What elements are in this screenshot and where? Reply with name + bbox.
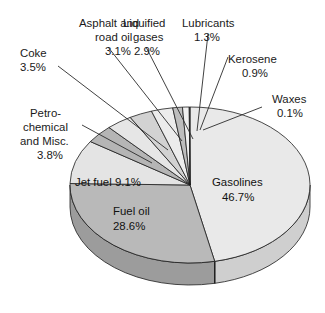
label-kerosene-pct: 0.9%	[242, 67, 268, 79]
label-waxes: Waxes 0.1%	[272, 93, 307, 119]
label-liquified-line2: gases	[133, 31, 164, 43]
label-gasolines-line1: Gasolines	[212, 176, 263, 188]
label-liquified-line1: Liquified	[123, 17, 165, 29]
label-coke-pct: 3.5%	[20, 61, 46, 73]
label-petro-line3: and Misc.	[20, 135, 69, 147]
label-waxes-pct: 0.1%	[277, 107, 303, 119]
pie-chart-figure: Asphalt and road oil 3.1% Liquified gase…	[0, 0, 325, 313]
label-coke: Coke 3.5%	[20, 47, 47, 73]
pie-chart-svg: Asphalt and road oil 3.1% Liquified gase…	[0, 0, 325, 313]
label-gasolines-pct: 46.7%	[222, 191, 254, 203]
label-petro-line2: chemical	[23, 121, 68, 133]
label-lubricants-line1: Lubricants	[182, 17, 235, 29]
label-asphalt-pct: 3.1%	[105, 45, 131, 57]
label-coke-line1: Coke	[20, 47, 47, 59]
label-kerosene-line1: Kerosene	[228, 53, 277, 65]
label-fueloil-line1: Fuel oil	[113, 205, 150, 217]
label-lubricants-pct: 1.3%	[194, 31, 220, 43]
label-waxes-line1: Waxes	[272, 93, 307, 105]
label-asphalt-line2: road oil	[95, 31, 132, 43]
label-petro-line1: Petro-	[30, 107, 61, 119]
label-fueloil-pct: 28.6%	[113, 220, 145, 232]
label-liquified-pct: 2.9%	[134, 45, 160, 57]
label-kerosene: Kerosene 0.9%	[228, 53, 277, 79]
label-petrochemical: Petro- chemical and Misc. 3.8%	[20, 107, 69, 161]
label-jetfuel-inline: Jet fuel 9.1%	[75, 176, 141, 188]
label-lubricants: Lubricants 1.3%	[182, 17, 235, 43]
label-petro-pct: 3.8%	[37, 149, 63, 161]
